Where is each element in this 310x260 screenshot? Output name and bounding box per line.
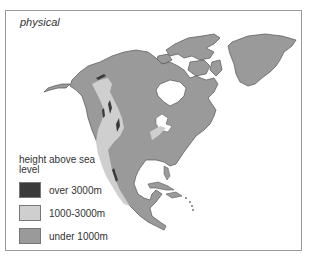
swatch-1000-3000 [19,205,41,221]
gulf-of-mexico [138,166,164,182]
arctic-islands [166,34,220,60]
legend-item-over-3000: over 3000m [19,182,108,198]
swatch-under-1000 [19,228,41,244]
swatch-over-3000 [19,182,41,198]
legend: height above sea level over 3000m 1000-3… [19,155,108,244]
legend-label: over 3000m [49,185,102,196]
greenland [228,34,296,86]
legend-heading: height above sea level [19,155,99,175]
map-title: physical [20,16,60,28]
alaska-peninsula [44,84,70,92]
legend-label: 1000-3000m [49,208,105,219]
legend-item-1000-3000: 1000-3000m [19,205,108,221]
legend-item-under-1000: under 1000m [19,228,108,244]
cuba [148,182,174,190]
legend-label: under 1000m [49,231,108,242]
